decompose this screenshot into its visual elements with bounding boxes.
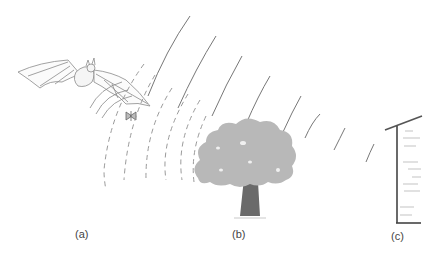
wall-icon [385, 116, 422, 223]
tree-icon [194, 118, 296, 218]
echolocation-diagram [0, 0, 439, 253]
moth-icon [126, 111, 136, 121]
label-a: (a) [75, 228, 88, 240]
label-b: (b) [232, 228, 245, 240]
label-c: (c) [391, 230, 404, 242]
bat-icon [18, 58, 150, 106]
